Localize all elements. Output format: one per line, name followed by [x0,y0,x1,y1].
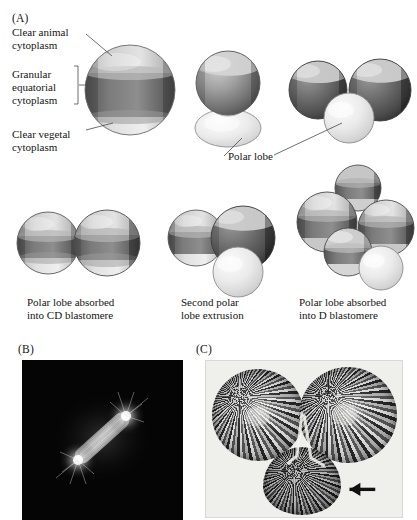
two-cell-with-polar-lobe [289,59,411,143]
cell-label-cd-top: CD [375,88,390,101]
panel-letter-a: (A) [12,12,29,24]
caption-second-polar-lobe-extrusion: Second polar lobe extrusion [181,296,244,323]
micrograph-panel-c [205,360,403,518]
cell-label-c: C [380,227,387,240]
cell-label-ab-bottom-left: AB [40,242,55,255]
cell-label-cd-bottom-left: CD [101,242,116,255]
figure-root: (A) Clear animal cytoplasm Granular equa… [0,0,417,520]
egg-uncleaved [85,45,175,147]
panel-letter-b: (B) [18,343,34,355]
cell-label-cd-bottom-middle: CD [233,240,248,253]
annotation-leader-lines [74,34,342,156]
label-polar-lobe: Polar lobe [228,150,273,163]
mitotic-spindle-image [22,360,183,520]
caption-polar-lobe-absorbed-d: Polar lobe absorbed into D blastomere [299,296,386,323]
panel-c-overlay [206,361,402,517]
label-clear-animal-cytoplasm: Clear animal cytoplasm [12,26,69,52]
egg-with-polar-lobe [195,51,261,147]
caption-polar-lobe-absorbed-cd: Polar lobe absorbed into CD blastomere [27,296,114,323]
label-granular-equatorial-cytoplasm: Granular equatorial cytoplasm [12,68,57,108]
micrograph-panel-b [22,360,183,520]
cell-label-b: B [352,182,359,195]
panel-letter-c: (C) [196,343,212,355]
cell-label-a: A [318,218,326,231]
two-cell-absorbed [17,210,140,280]
cell-label-ab-bottom-middle: AB [183,240,198,253]
polar-lobe-arrow [350,483,376,496]
cell-label-d: D [341,250,349,263]
cell-label-ab-top: AB [309,88,324,101]
label-clear-vegetal-cytoplasm: Clear vegetal cytoplasm [12,128,70,154]
